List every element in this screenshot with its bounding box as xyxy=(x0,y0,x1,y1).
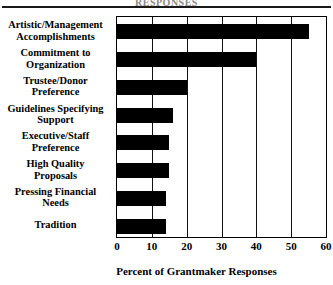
x-axis-tick-labels: 0102030405060 xyxy=(116,240,327,254)
category-label-line: Needs xyxy=(0,197,111,209)
category-label-line: Support xyxy=(0,114,111,126)
category-label-line: Executive/Staff xyxy=(0,130,111,142)
category-label-line: Organization xyxy=(0,59,111,71)
category-label: Tradition xyxy=(0,219,111,231)
category-axis-labels: Artistic/ManagementAccomplishmentsCommit… xyxy=(0,16,113,238)
bar xyxy=(117,219,166,234)
category-label: High QualityProposals xyxy=(0,158,111,181)
bar xyxy=(117,191,166,206)
category-label-line: Guidelines Specifying xyxy=(0,103,111,115)
category-label: Commitment toOrganization xyxy=(0,47,111,70)
category-label: Guidelines SpecifyingSupport xyxy=(0,103,111,126)
category-label-line: Artistic/Management xyxy=(0,19,111,31)
category-label-line: Preference xyxy=(0,142,111,154)
gridline-50 xyxy=(291,17,292,237)
category-label-line: Trustee/Donor xyxy=(0,75,111,87)
bar xyxy=(117,163,169,178)
category-label: Artistic/ManagementAccomplishments xyxy=(0,19,111,42)
category-label-line: Tradition xyxy=(0,219,111,231)
x-tick-label-0: 0 xyxy=(114,240,120,253)
bar-chart-figure: RESPONSES Artistic/ManagementAccomplishm… xyxy=(0,0,333,285)
category-label: Pressing FinancialNeeds xyxy=(0,186,111,209)
x-tick-label-20: 20 xyxy=(181,240,192,253)
category-label-line: High Quality xyxy=(0,158,111,170)
plot-area xyxy=(116,16,327,238)
category-label-line: Preference xyxy=(0,86,111,98)
gridline-40 xyxy=(256,17,257,237)
x-tick-label-40: 40 xyxy=(251,240,262,253)
x-tick-label-60: 60 xyxy=(321,240,332,253)
bar xyxy=(117,24,309,39)
gridline-20 xyxy=(187,17,188,237)
category-label-line: Commitment to xyxy=(0,47,111,59)
bar xyxy=(117,80,187,95)
x-axis-title: Percent of Grantmaker Responses xyxy=(60,264,333,278)
x-tick-label-30: 30 xyxy=(216,240,227,253)
category-label-line: Proposals xyxy=(0,170,111,182)
bar xyxy=(117,135,169,150)
bar xyxy=(117,52,256,67)
gridline-30 xyxy=(222,17,223,237)
x-tick-label-50: 50 xyxy=(286,240,297,253)
category-label-line: Pressing Financial xyxy=(0,186,111,198)
category-label: Executive/StaffPreference xyxy=(0,130,111,153)
category-label: Trustee/DonorPreference xyxy=(0,75,111,98)
category-label-line: Accomplishments xyxy=(0,31,111,43)
top-divider-rule xyxy=(2,6,331,8)
bar xyxy=(117,108,173,123)
x-tick-label-10: 10 xyxy=(146,240,157,253)
